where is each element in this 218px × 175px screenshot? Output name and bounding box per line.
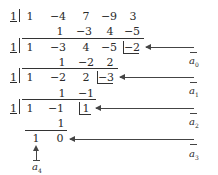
arrow-a4 <box>36 150 37 160</box>
remainder-2: −3 <box>96 72 116 83</box>
label-a4: a4 <box>32 162 42 175</box>
arrow-a2 <box>96 108 194 109</box>
prod2-2: 2 <box>100 57 120 68</box>
arrow-a0 <box>146 47 194 48</box>
arrow-a3 <box>70 139 194 140</box>
q2-2: 2 <box>76 72 96 83</box>
label-sub: 0 <box>195 61 199 68</box>
label-sub: 3 <box>195 154 199 161</box>
divisor-value: 1 <box>10 71 17 84</box>
coef-2: 7 <box>76 11 96 22</box>
label-sub: 4 <box>38 167 42 174</box>
tick-a1 <box>190 82 197 83</box>
prod1-0: 1 <box>50 26 70 37</box>
label-sub: 1 <box>195 91 199 98</box>
tick-a0 <box>190 52 197 53</box>
q3-0: 1 <box>20 103 40 114</box>
prod2-0: 1 <box>52 57 72 68</box>
divisor-4: 1 <box>10 103 17 114</box>
divisor-3: 1 <box>10 72 17 83</box>
divisor-value: 1 <box>10 10 17 23</box>
q2-0: 1 <box>20 72 40 83</box>
sum-line-2 <box>22 68 118 69</box>
label-a1: a1 <box>189 86 199 100</box>
coef-3: −9 <box>99 11 119 22</box>
q3-1: −1 <box>46 103 66 114</box>
q4-0: 1 <box>26 133 46 144</box>
prod3-1: −1 <box>76 88 96 99</box>
q1-0: 1 <box>20 42 40 53</box>
prod1-3: −5 <box>122 26 142 37</box>
remainder-3: 1 <box>76 103 96 114</box>
coef-1: −4 <box>48 11 68 22</box>
divisor-2: 1 <box>10 42 17 53</box>
label-a2: a2 <box>189 117 199 131</box>
prod2-1: −2 <box>76 57 96 68</box>
prod1-2: 4 <box>100 26 120 37</box>
remainder-1: −2 <box>122 42 142 53</box>
q1-3: −5 <box>99 42 119 53</box>
sum-line-4 <box>25 130 67 131</box>
coef-0: 1 <box>20 11 40 22</box>
divisor-value: 1 <box>10 102 17 115</box>
divisor-1: 1 <box>10 11 17 22</box>
coef-4: 3 <box>123 11 143 22</box>
q1-2: 4 <box>76 42 96 53</box>
prod4-0: 1 <box>51 118 71 129</box>
arrow-a1 <box>120 77 194 78</box>
sum-line-1 <box>22 38 144 39</box>
remainder-4: 0 <box>50 133 70 144</box>
divisor-value: 1 <box>10 41 17 54</box>
prod1-1: −3 <box>74 26 94 37</box>
tick-a2 <box>190 113 197 114</box>
q1-1: −3 <box>48 42 68 53</box>
sum-line-3 <box>22 99 96 100</box>
label-a0: a0 <box>189 56 199 70</box>
tick-a3 <box>190 144 197 145</box>
label-sub: 2 <box>195 122 199 129</box>
label-a3: a3 <box>189 149 199 163</box>
prod3-0: 1 <box>52 88 72 99</box>
q2-1: −2 <box>48 72 68 83</box>
